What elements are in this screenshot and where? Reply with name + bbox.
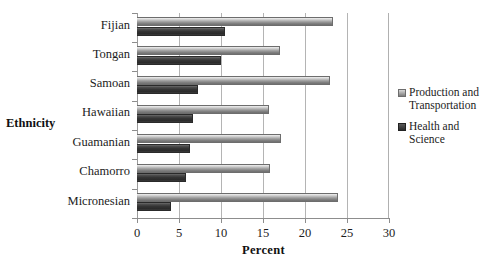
x-axis-tick [221,218,222,223]
bar-chart: Fijian Tongan Samoan Hawaiian Guamanian … [0,0,487,267]
bar-tongan-health-science [137,56,221,65]
bar-tongan-production-transportation [137,46,280,55]
bar-guamanian-health-science [137,144,190,153]
x-axis-tick-label: 10 [206,226,236,241]
bar-hawaiian-production-transportation [137,105,269,114]
bar-fijian-health-science [137,27,225,36]
x-axis-tick-label: 0 [122,226,152,241]
y-axis-title: Ethnicity [6,116,102,131]
x-axis-tick [263,218,264,223]
x-axis-tick-label: 15 [248,226,278,241]
x-axis-tick [305,218,306,223]
x-axis-tick-label: 5 [164,226,194,241]
bar-fijian-production-transportation [137,17,333,26]
gridline-20 [305,13,306,218]
legend-swatch-icon [398,123,406,131]
x-axis-tick [389,218,390,223]
bar-micronesian-production-transportation [137,193,338,202]
category-axis-labels: Fijian Tongan Samoan Hawaiian Guamanian … [0,0,130,267]
x-axis-tick-label: 30 [374,226,404,241]
bar-chamorro-health-science [137,173,186,182]
plot-area [137,13,389,218]
legend-entry-production-and-transportation: Production and Transportation [398,86,486,111]
x-axis-tick-label: 25 [332,226,362,241]
category-label: Samoan [2,77,130,90]
legend-swatch-icon [398,89,406,97]
x-axis-tick-label: 20 [290,226,320,241]
bar-hawaiian-health-science [137,114,193,123]
category-label: Fijian [2,19,130,32]
category-label: Micronesian [2,195,130,208]
x-axis-title: Percent [137,243,390,258]
gridline-15 [263,13,264,218]
x-axis-tick [179,218,180,223]
bar-guamanian-production-transportation [137,134,281,143]
legend-entry-health-and-science: Health and Science [398,120,486,145]
gridline-25 [347,13,348,218]
bar-samoan-health-science [137,85,198,94]
x-axis-tick [137,218,138,223]
legend-label: Health and Science [409,120,486,145]
category-label: Chamorro [2,165,130,178]
category-label: Tongan [2,48,130,61]
legend-label: Production and Transportation [409,86,486,111]
chart-legend: Production and Transportation Health and… [398,86,486,154]
bar-chamorro-production-transportation [137,164,270,173]
x-axis-tick [347,218,348,223]
gridline-10 [221,13,222,218]
bar-micronesian-health-science [137,202,171,211]
category-label: Guamanian [2,136,130,149]
bar-samoan-production-transportation [137,76,330,85]
